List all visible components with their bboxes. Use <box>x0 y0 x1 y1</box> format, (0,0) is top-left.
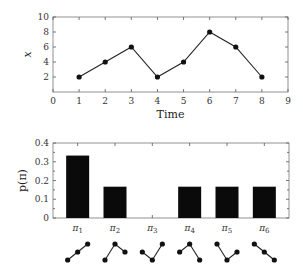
ordinal-pattern-figure: 0123456789246810Timex00.10.20.30.4p(π)π1… <box>0 0 303 279</box>
data-point <box>77 74 82 79</box>
bar-chart: 00.10.20.30.4p(π)π1π2π3π4π5π6 <box>16 138 289 235</box>
pattern-up-down-high-icon <box>102 241 127 262</box>
data-point <box>181 59 186 64</box>
pattern-increasing-icon <box>65 241 90 262</box>
x-axis-title: Time <box>157 108 185 121</box>
bar <box>216 187 239 218</box>
plot-frame <box>53 17 288 92</box>
y-tick-label: 6 <box>43 42 49 52</box>
category-label: π2 <box>109 223 120 235</box>
y-tick-label: 0.2 <box>35 176 49 186</box>
data-point <box>233 44 238 49</box>
x-tick-label: 4 <box>155 96 161 106</box>
x-tick-label: 5 <box>181 96 187 106</box>
y-tick-label: 10 <box>38 12 50 22</box>
x-tick-label: 0 <box>50 96 56 106</box>
category-label: π3 <box>146 223 157 235</box>
pattern-down-up-low-icon <box>214 241 239 262</box>
y-axis-title: p(π) <box>16 169 29 192</box>
data-point <box>129 44 134 49</box>
category-label: π1 <box>71 223 82 235</box>
y-tick-label: 4 <box>43 57 49 67</box>
y-axis-title: x <box>21 51 34 58</box>
pattern-decreasing-icon <box>252 241 277 262</box>
x-tick-label: 8 <box>259 96 265 106</box>
x-tick-label: 9 <box>285 96 291 106</box>
y-tick-label: 8 <box>43 27 49 37</box>
pattern-glyphs <box>65 241 277 262</box>
line-chart: 0123456789246810Timex <box>21 12 291 121</box>
pattern-up-down-low-icon <box>177 241 202 262</box>
category-label: π6 <box>258 223 270 235</box>
x-tick-label: 1 <box>76 96 82 106</box>
data-point <box>207 29 212 34</box>
series-line <box>79 32 262 77</box>
y-tick-label: 0.4 <box>35 138 50 148</box>
y-tick-label: 0 <box>43 213 49 223</box>
x-tick-label: 2 <box>102 96 108 106</box>
y-tick-label: 0.1 <box>35 194 49 204</box>
data-point <box>155 74 160 79</box>
data-point <box>259 74 264 79</box>
x-tick-label: 6 <box>207 96 213 106</box>
bar <box>178 187 201 218</box>
x-tick-label: 3 <box>128 96 134 106</box>
bar <box>253 187 276 218</box>
bar <box>66 156 89 218</box>
y-tick-label: 2 <box>43 72 49 82</box>
data-point <box>103 59 108 64</box>
category-label: π5 <box>221 223 232 235</box>
bar <box>104 187 127 218</box>
pattern-down-up-high-icon <box>140 241 165 262</box>
y-tick-label: 0.3 <box>35 157 50 167</box>
category-label: π4 <box>183 223 195 235</box>
x-tick-label: 7 <box>233 96 239 106</box>
